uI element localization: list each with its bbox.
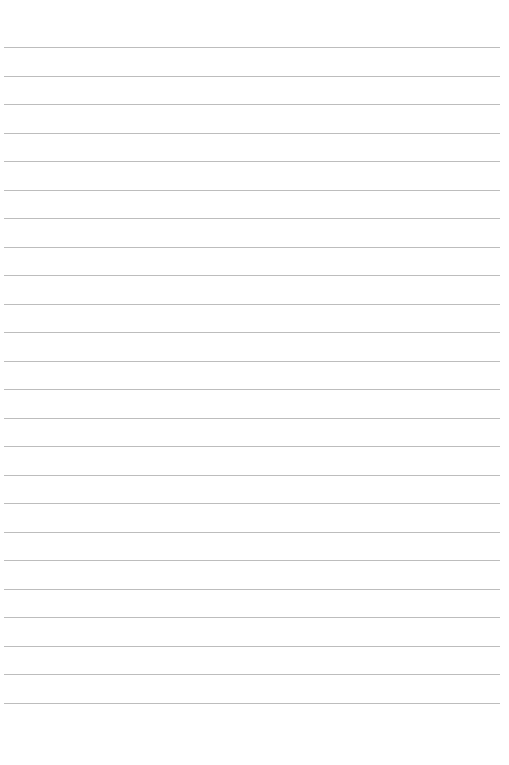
ruled-line xyxy=(4,133,500,134)
ruled-line xyxy=(4,47,500,48)
ruled-line xyxy=(4,76,500,77)
lined-paper-sheet xyxy=(0,0,509,765)
ruled-line xyxy=(4,361,500,362)
ruled-line xyxy=(4,674,500,675)
ruled-line xyxy=(4,104,500,105)
ruled-line xyxy=(4,275,500,276)
ruled-line xyxy=(4,475,500,476)
ruled-line xyxy=(4,560,500,561)
ruled-line xyxy=(4,161,500,162)
ruled-line xyxy=(4,446,500,447)
ruled-line xyxy=(4,218,500,219)
ruled-line xyxy=(4,646,500,647)
ruled-line xyxy=(4,589,500,590)
ruled-line xyxy=(4,304,500,305)
ruled-line xyxy=(4,418,500,419)
ruled-line xyxy=(4,247,500,248)
ruled-line xyxy=(4,389,500,390)
ruled-line xyxy=(4,703,500,704)
ruled-line xyxy=(4,617,500,618)
ruled-line xyxy=(4,332,500,333)
ruled-line xyxy=(4,532,500,533)
ruled-line xyxy=(4,503,500,504)
ruled-line xyxy=(4,190,500,191)
